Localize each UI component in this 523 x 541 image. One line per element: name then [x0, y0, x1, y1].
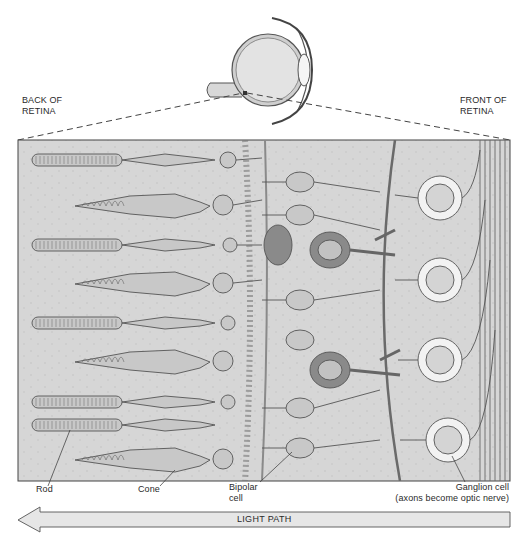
- light-path-label: LIGHT PATH: [237, 514, 292, 524]
- rod-label: Rod: [36, 484, 53, 495]
- cone-label: Cone: [138, 484, 160, 495]
- front-label-line2: RETINA: [460, 106, 507, 117]
- bipolar-line2: cell: [229, 493, 258, 504]
- front-label-line1: FRONT OF: [460, 95, 507, 106]
- retina-panel: [18, 140, 510, 481]
- bipolar-line1: Bipolar: [229, 482, 258, 493]
- back-label-line2: RETINA: [22, 106, 62, 117]
- ganglion-line2: (axons become optic nerve): [395, 493, 509, 504]
- ganglion-cell-label: Ganglion cell (axons become optic nerve): [395, 482, 509, 504]
- ganglion-line1: Ganglion cell: [395, 482, 509, 493]
- back-label-line1: BACK OF: [22, 95, 62, 106]
- bipolar-cell-label: Bipolar cell: [229, 482, 258, 504]
- eye-illustration: [207, 18, 312, 124]
- retina-diagram: [0, 0, 523, 541]
- front-of-retina-label: FRONT OF RETINA: [460, 95, 507, 117]
- back-of-retina-label: BACK OF RETINA: [22, 95, 62, 117]
